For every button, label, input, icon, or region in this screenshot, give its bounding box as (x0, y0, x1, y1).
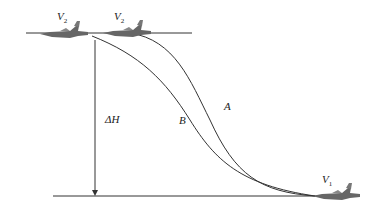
v2-left-label: V2 (57, 10, 67, 25)
v2-right-label: V2 (114, 10, 124, 25)
curve-a-label: A (224, 100, 231, 112)
curve-b-label: B (179, 114, 186, 126)
curve-b (92, 36, 315, 196)
dive-trajectory-diagram: V2 V2 V1 ΔH A B (0, 0, 379, 214)
aircraft-icon-right (103, 20, 151, 37)
v1-label: V1 (322, 173, 332, 188)
aircraft-icon-bottom (312, 183, 360, 200)
curve-a (130, 33, 315, 196)
delta-h-label: ΔH (105, 113, 119, 125)
